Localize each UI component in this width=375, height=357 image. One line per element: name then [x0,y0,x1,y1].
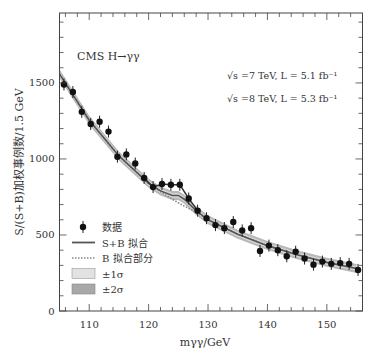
legend-label: ±1σ [102,269,124,280]
data-point [301,255,307,261]
annotation-7tev: √s =7 TeV, L = 5.1 fb⁻¹ [227,70,337,81]
data-point [87,121,93,127]
data-point [355,267,361,273]
data-point [239,227,245,233]
y-tick-label: 500 [35,229,54,240]
x-tick-label: 150 [317,319,336,330]
data-point [105,128,111,134]
legend-item: B 拟合部分 [72,252,153,264]
legend-item: ±2σ [72,284,124,295]
data-point [230,219,236,225]
data-point [292,249,298,255]
data-point [123,151,129,157]
data-point [61,81,67,87]
y-tick-label: 1000 [29,153,54,164]
data-point [346,261,352,267]
legend-label: ±2σ [102,284,124,295]
legend-label: 数据 [102,221,122,233]
x-tick-label: 130 [198,319,217,330]
data-point [79,109,85,115]
data-point [70,89,76,95]
data-point [203,215,209,221]
data-point [186,195,192,201]
data-point [212,222,218,228]
data-point [248,225,254,231]
x-axis-label: mγγ/GeV [180,336,232,349]
x-tick-label: 120 [139,319,158,330]
data-point [266,242,272,248]
data-point [319,258,325,264]
x-tick-label: 110 [80,319,99,330]
data-point [168,182,174,188]
data-point [141,175,147,181]
data-point [150,184,156,190]
data-point [132,160,138,166]
data-point [275,247,281,253]
annotation-8tev: √s =8 TeV, L = 5.3 fb⁻¹ [227,93,337,104]
data-point [159,181,165,187]
x-tick-label: 140 [258,319,277,330]
data-point [257,248,263,254]
data-point [114,153,120,159]
data-point [328,261,334,267]
legend-item: S+B 拟合 [72,237,148,249]
chart: 110120130140150050010001500 CMS H→γγ √s … [0,0,375,357]
data-point [96,119,102,125]
data-point [221,225,227,231]
legend: 数据S+B 拟合B 拟合部分±1σ±2σ [72,221,153,295]
y-tick-label: 0 [48,306,54,317]
data-point [177,182,183,188]
data-point [310,261,316,267]
data-point [194,207,200,213]
y-axis-label: S/(S+B)加权事例数/1.5 GeV [12,87,26,236]
legend-item: ±1σ [72,269,124,280]
experiment-label: CMS H→γγ [77,50,140,63]
y-tick-label: 1500 [29,77,54,88]
legend-item: 数据 [80,221,122,233]
legend-label: B 拟合部分 [102,252,153,264]
data-point [284,253,290,259]
legend-label: S+B 拟合 [102,237,148,249]
data-point [337,260,343,266]
